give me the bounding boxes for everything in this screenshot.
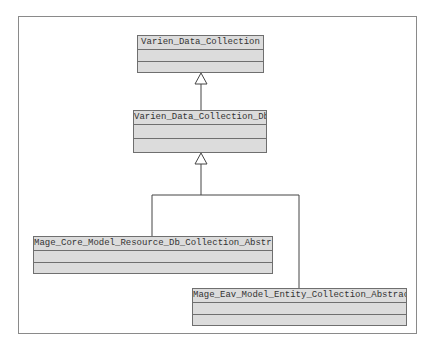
class-operations xyxy=(34,263,272,274)
class-name: Mage_Eav_Model_Entity_Collection_Abstrac… xyxy=(193,289,406,303)
class-box-varien-data-collection-db[interactable]: Varien_Data_Collection_Db xyxy=(133,110,267,153)
class-attributes xyxy=(134,125,266,139)
class-name: Mage_Core_Model_Resource_Db_Collection_A… xyxy=(34,237,272,251)
generalization-arrow-icon xyxy=(195,73,207,84)
class-attributes xyxy=(138,50,263,62)
class-attributes xyxy=(34,251,272,263)
class-operations xyxy=(138,62,263,73)
class-attributes xyxy=(193,303,406,315)
class-box-varien-data-collection[interactable]: Varien_Data_Collection xyxy=(137,35,264,73)
generalization-arrow-icon xyxy=(195,153,207,164)
class-operations xyxy=(193,315,406,326)
class-box-mage-core-model-resource-db-collection-abstract[interactable]: Mage_Core_Model_Resource_Db_Collection_A… xyxy=(33,236,273,274)
class-operations xyxy=(134,139,266,152)
class-name: Varien_Data_Collection_Db xyxy=(134,111,266,125)
class-name: Varien_Data_Collection xyxy=(138,36,263,50)
class-box-mage-eav-model-entity-collection-abstract[interactable]: Mage_Eav_Model_Entity_Collection_Abstrac… xyxy=(192,288,407,326)
